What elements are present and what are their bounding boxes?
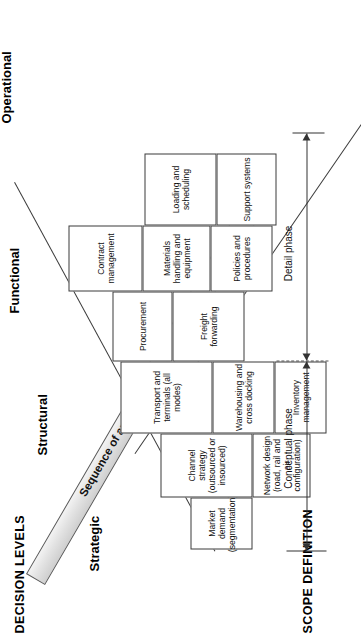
decision-level-functional: Functional bbox=[6, 247, 21, 313]
measure-arrow-mid-left bbox=[302, 361, 310, 368]
cell-support-systems: Support systems bbox=[216, 153, 276, 225]
cell-label: Market demand (segmentation) bbox=[206, 494, 236, 551]
axis-title-decision-levels: DECISION LEVELS bbox=[12, 514, 26, 633]
cell-label: Freight forwarding bbox=[198, 293, 218, 359]
decision-level-structural: Structural bbox=[34, 394, 49, 455]
cell-label: Network design (road, rail and air confi… bbox=[261, 435, 302, 495]
cell-label: Materials handling and equipment bbox=[161, 227, 191, 289]
cell-freight-forwarding: Freight forwarding bbox=[172, 291, 244, 361]
measure-arrow-right bbox=[302, 133, 310, 140]
decision-level-strategic: Strategic bbox=[86, 515, 101, 571]
phase-label-conceptual: Conceptual phase bbox=[282, 403, 294, 493]
cell-market-demand: Market demand (segmentation) bbox=[190, 497, 252, 549]
cell-policies-and-procedures: Policies and procedures bbox=[210, 225, 272, 291]
cell-label: Warehousing and cross docking bbox=[233, 363, 253, 431]
cell-label: Loading and scheduling bbox=[170, 155, 190, 223]
measure-arrow-left bbox=[302, 543, 310, 550]
cell-label: Channel strategy (outsourced or insource… bbox=[186, 435, 227, 495]
cell-label: Transport and terminals (all modes) bbox=[151, 363, 181, 431]
measure-line-detail bbox=[306, 133, 307, 360]
phase-label-detail: Detail phase bbox=[282, 213, 294, 293]
cell-transport-and-terminals: Transport and terminals (all modes) bbox=[120, 361, 212, 433]
measure-arrow-mid-right bbox=[302, 353, 310, 360]
cell-label: Contract management bbox=[95, 227, 115, 289]
cell-label: Procurement bbox=[137, 301, 147, 350]
decision-level-operational: Operational bbox=[0, 51, 13, 123]
cell-warehousing-cross-docking: Warehousing and cross docking bbox=[212, 361, 274, 433]
cell-loading-and-scheduling: Loading and scheduling bbox=[144, 153, 216, 225]
cell-channel-strategy: Channel strategy (outsourced or insource… bbox=[160, 433, 252, 497]
cell-procurement: Procurement bbox=[112, 291, 172, 361]
cell-materials-handling-equipment: Materials handling and equipment bbox=[142, 225, 210, 291]
cell-label: Support systems bbox=[241, 157, 251, 221]
cell-label: Policies and procedures bbox=[231, 227, 251, 289]
measure-line-conceptual bbox=[306, 361, 307, 549]
cell-contract-management: Contract management bbox=[68, 225, 142, 291]
cell-network-design: Network design (road, rail and air confi… bbox=[252, 433, 310, 497]
